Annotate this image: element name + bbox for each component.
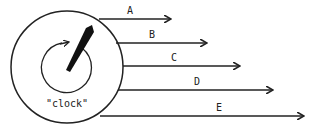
rotation-arrow-icon <box>41 43 91 93</box>
clock-diagram: "clock" ABCDE <box>0 0 312 130</box>
clock-hand <box>66 25 94 72</box>
arrow-label-a: A <box>127 5 133 16</box>
arrow-label-e: E <box>216 102 222 113</box>
arrow-label-b: B <box>149 29 155 40</box>
arrow-label-d: D <box>194 76 200 87</box>
clock-label: "clock" <box>46 98 88 109</box>
arrow-label-c: C <box>171 52 177 63</box>
